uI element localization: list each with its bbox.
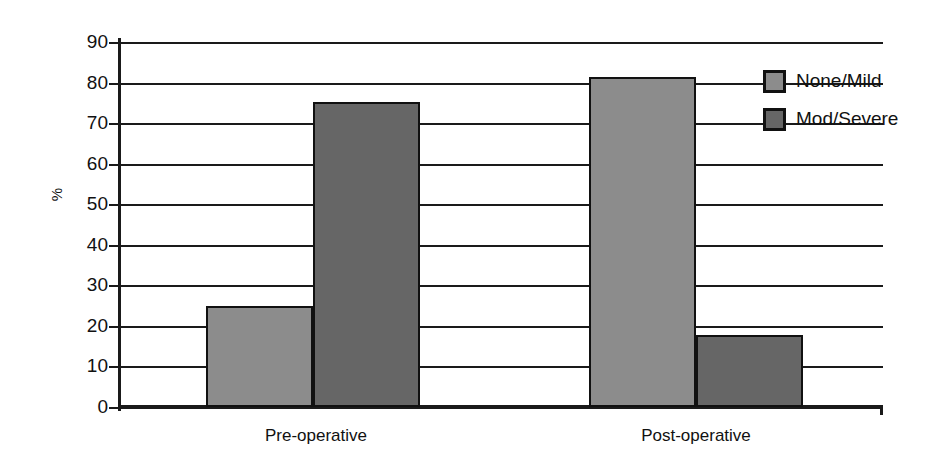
bar-pre-operative-none-mild: [206, 306, 313, 407]
y-tick-label-20: 20: [62, 316, 108, 335]
y-tick-label-40: 40: [62, 235, 108, 254]
y-tick-label-90: 90: [62, 32, 108, 51]
x-category-label-0: Pre-operative: [210, 426, 422, 446]
legend-item-mod-severe: Mod/Severe: [763, 100, 898, 138]
y-tick-50: [109, 204, 123, 206]
gridline-60: [118, 164, 883, 166]
y-tick-80: [109, 83, 123, 85]
y-tick-label-10: 10: [62, 356, 108, 375]
y-tick-label-70: 70: [62, 113, 108, 132]
legend-label-mod-severe: Mod/Severe: [796, 108, 898, 130]
legend-swatch-none-mild: [763, 70, 786, 93]
y-tick-label-30: 30: [62, 275, 108, 294]
y-tick-70: [109, 123, 123, 125]
x-category-label-1: Post-operative: [588, 426, 804, 446]
y-tick-label-60: 60: [62, 154, 108, 173]
gridline-0: [118, 407, 883, 409]
legend: None/Mild Mod/Severe: [763, 62, 898, 138]
y-tick-0: [109, 407, 123, 409]
legend-label-none-mild: None/Mild: [796, 70, 882, 92]
y-tick-60: [109, 164, 123, 166]
gridline-50: [118, 204, 883, 206]
y-tick-30: [109, 285, 123, 287]
y-tick-label-80: 80: [62, 73, 108, 92]
gridline-40: [118, 245, 883, 247]
legend-swatch-mod-severe: [763, 108, 786, 131]
y-tick-label-50: 50: [62, 194, 108, 213]
gridline-30: [118, 285, 883, 287]
bar-post-operative-none-mild: [589, 77, 696, 407]
y-tick-40: [109, 245, 123, 247]
bar-post-operative-mod-severe: [696, 335, 803, 407]
bar-chart: % 9080706050403020100 Pre-operative Post…: [0, 0, 937, 473]
y-tick-10: [109, 366, 123, 368]
gridline-90: [118, 42, 883, 44]
y-tick-label-0: 0: [62, 397, 108, 416]
y-tick-90: [109, 42, 123, 44]
y-tick-20: [109, 326, 123, 328]
legend-item-none-mild: None/Mild: [763, 62, 898, 100]
bar-pre-operative-mod-severe: [313, 102, 420, 407]
